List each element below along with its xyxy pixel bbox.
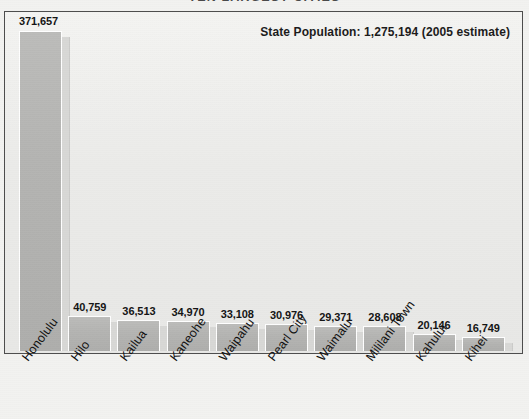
bars-layer: 371,65740,75936,51334,97033,10830,97629,… [5,12,522,353]
x-axis-labels: HonoluluHiloKailuaKaneoheWaipahuPearl Ci… [4,356,523,419]
bar-value-label: 371,657 [19,15,58,27]
bar-value-label: 36,513 [122,305,155,317]
bar-value-label: 16,749 [467,322,500,334]
bar-honolulu: 371,657 [19,31,62,351]
bar-value-label: 40,759 [73,301,106,313]
plot-frame: State Population: 1,275,194 (2005 estima… [4,11,523,354]
chart-title: TEN LARGEST CITIES [0,0,529,4]
bar-rect [19,31,62,351]
